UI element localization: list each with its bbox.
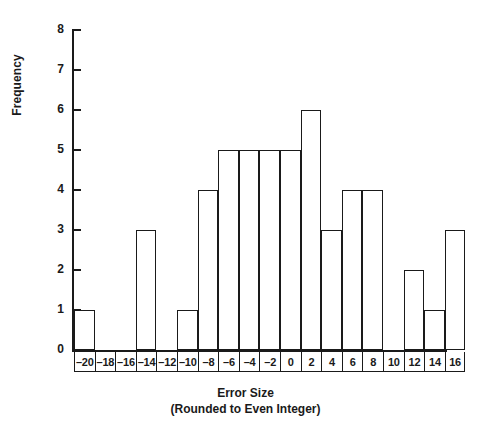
y-tick-label-7: 7 <box>38 63 64 75</box>
x-axis-label-rule <box>74 371 465 372</box>
x-tick-label-16: 16 <box>445 352 466 372</box>
x-tick-label--14: –14 <box>136 352 157 372</box>
y-tick-label-2: 2 <box>38 263 64 275</box>
bar--8 <box>198 190 219 350</box>
y-tick-label-6: 6 <box>38 103 64 115</box>
y-tick-label-8: 8 <box>38 23 64 35</box>
x-tick-label--18: –18 <box>95 352 116 372</box>
y-tick-label-0: 0 <box>38 343 64 355</box>
x-tick-label-10: 10 <box>383 352 404 372</box>
bar-8 <box>362 190 383 350</box>
bar--6 <box>218 150 239 350</box>
y-axis-title: Frequency <box>6 25 28 145</box>
plot-area: 876543210 <box>72 31 447 352</box>
y-tick-label-5: 5 <box>38 143 64 155</box>
x-tick-label-6: 6 <box>342 352 363 372</box>
x-tick-label-12: 12 <box>404 352 425 372</box>
x-tick-label--4: –4 <box>239 352 260 372</box>
x-tick-label-14: 14 <box>424 352 445 372</box>
y-tick-label-3: 3 <box>38 223 64 235</box>
bar-4 <box>321 230 342 350</box>
x-axis-title-line1: Error Size <box>217 386 274 400</box>
bar-12 <box>404 270 425 350</box>
bar--14 <box>136 230 157 350</box>
bar--2 <box>259 150 280 350</box>
x-axis-tick-labels: –20–18–16–14–12–10–8–6–4–20246810121416 <box>74 352 465 372</box>
y-tick-label-1: 1 <box>38 303 64 315</box>
x-axis-title: Error Size (Rounded to Even Integer) <box>0 385 491 417</box>
bar-2 <box>301 110 322 350</box>
x-tick-label-2: 2 <box>301 352 322 372</box>
x-tick-label--6: –6 <box>218 352 239 372</box>
bar-0 <box>280 150 301 350</box>
x-tick-label-4: 4 <box>321 352 342 372</box>
x-axis-title-line2: (Rounded to Even Integer) <box>0 401 491 417</box>
x-tick-label--8: –8 <box>198 352 219 372</box>
bar--4 <box>239 150 260 350</box>
bar-6 <box>342 190 363 350</box>
histogram-figure: Frequency 876543210 –20–18–16–14–12–10–8… <box>0 0 491 426</box>
bar--20 <box>74 310 95 350</box>
y-tick-label-4: 4 <box>38 183 64 195</box>
x-tick-label--20: –20 <box>74 352 95 372</box>
bar-14 <box>424 310 445 350</box>
x-tick-label-0: 0 <box>280 352 301 372</box>
x-tick-label--10: –10 <box>177 352 198 372</box>
x-tick-label--12: –12 <box>156 352 177 372</box>
x-tick-label-8: 8 <box>362 352 383 372</box>
x-tick-label--2: –2 <box>259 352 280 372</box>
bar--10 <box>177 310 198 350</box>
bar-series <box>74 31 447 352</box>
x-tick-label--16: –16 <box>115 352 136 372</box>
bar-16 <box>445 230 466 350</box>
